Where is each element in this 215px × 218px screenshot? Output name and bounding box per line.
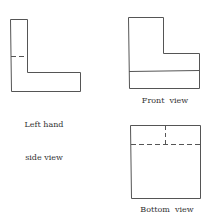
front-view-label: Front view bbox=[133, 95, 197, 106]
front-view-edge-line bbox=[129, 71, 199, 72]
front-view-outline bbox=[129, 18, 200, 89]
left-side-view bbox=[11, 20, 81, 92]
bottom-view-label: Bottom view bbox=[134, 204, 200, 215]
bottom-view bbox=[131, 126, 201, 199]
left-view-label-line1: Left hand bbox=[14, 119, 74, 130]
left-view-outline bbox=[11, 20, 81, 92]
left-view-label-line2: side view bbox=[14, 152, 74, 163]
left-view-label: Left hand side view bbox=[14, 97, 74, 174]
front-view bbox=[129, 18, 200, 89]
